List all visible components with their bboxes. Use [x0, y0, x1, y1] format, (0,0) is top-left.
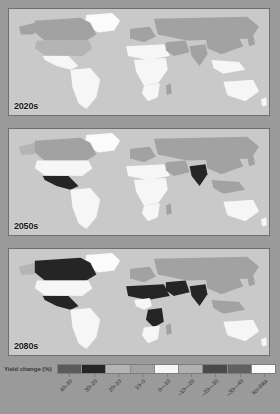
legend-swatch-1: [82, 365, 106, 373]
map-panel-2080s[interactable]: 2080s: [8, 248, 270, 356]
legend-tick-1: [94, 374, 95, 377]
legend-label-0: 40–30: [59, 378, 74, 393]
world-map-2080s: [9, 249, 269, 355]
legend-label-7: –30––40: [225, 378, 244, 397]
legend-tick-3: [142, 374, 143, 377]
legend-label-2: 20–10: [107, 378, 122, 393]
era-label-2050s: 2050s: [14, 222, 38, 231]
legend-tick-5: [191, 374, 192, 377]
yield-change-map-figure: 2020s 2050s: [0, 0, 280, 414]
legend-tick-6: [215, 374, 216, 377]
era-label-2080s: 2080s: [14, 342, 38, 351]
legend-color-strip: [57, 364, 276, 374]
era-label-2020s: 2020s: [14, 102, 38, 111]
legend-swatch-7: [228, 365, 252, 373]
world-map-2020s: [9, 9, 269, 115]
legend-label-8: No data: [250, 378, 268, 396]
legend-swatch-4: [155, 365, 179, 373]
map-panel-2050s[interactable]: 2050s: [8, 128, 270, 236]
legend-label-6: –20––30: [200, 378, 219, 397]
legend-tick-7: [240, 374, 241, 377]
legend-swatch-0: [58, 365, 82, 373]
map-panel-2020s[interactable]: 2020s: [8, 8, 270, 116]
legend-swatch-6: [203, 365, 227, 373]
legend-tick-0: [69, 374, 70, 377]
legend-label-4: 0––10: [156, 378, 171, 393]
world-map-2050s: [9, 129, 269, 235]
legend-tick-8: [264, 374, 265, 377]
legend-tick-row: 40–3030–2020–1010–00––10–10––20–20––30–3…: [57, 374, 276, 414]
legend-swatch-8: [252, 365, 275, 373]
legend-title: Yield change (%): [4, 365, 52, 372]
legend-label-1: 30–20: [83, 378, 98, 393]
legend-tick-2: [118, 374, 119, 377]
legend-swatch-2: [106, 365, 130, 373]
legend-tick-4: [167, 374, 168, 377]
legend-label-3: 10–0: [134, 378, 147, 391]
legend: Yield change (%) 40–3030–2020–1010–00––1…: [0, 362, 280, 414]
legend-swatch-5: [179, 365, 203, 373]
legend-label-5: –10––20: [176, 378, 195, 397]
legend-swatch-3: [131, 365, 155, 373]
